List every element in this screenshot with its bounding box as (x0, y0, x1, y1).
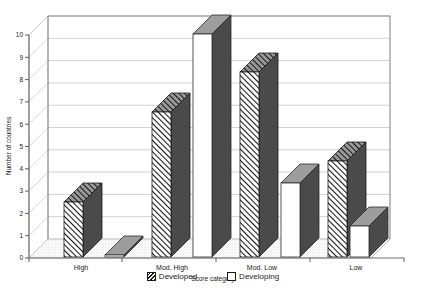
bar-modlow-developing (281, 164, 319, 257)
y-tick-label-9: 9 (19, 54, 23, 61)
legend-item-developed[interactable]: Developed (147, 272, 197, 281)
legend-item-developing[interactable]: Developing (227, 272, 279, 281)
y-tick-label-1: 1 (19, 232, 23, 239)
bar-modhigh-developing (193, 15, 231, 257)
legend-marker-empty-square (227, 272, 236, 281)
y-tick-label-4: 4 (19, 165, 23, 172)
x-tick-label-mod-low: Mod. Low (247, 264, 278, 271)
y-tick-label-0: 0 (19, 254, 23, 261)
bar-modlow-developed (240, 53, 278, 257)
y-tick-label-7: 7 (19, 98, 23, 105)
x-tick-label-high: High (74, 264, 89, 272)
bar-chart: 10 9 8 7 6 5 4 3 2 1 0 Number of countri… (0, 0, 426, 293)
y-tick-label-8: 8 (19, 76, 23, 83)
legend-marker-hatched-square (147, 272, 156, 281)
x-tick-label-mod-high: Mod. High (156, 264, 188, 272)
y-tick-label-5: 5 (19, 143, 23, 150)
y-axis-title: Number of countries (5, 116, 12, 175)
chart-canvas: 10 9 8 7 6 5 4 3 2 1 0 Number of countri… (0, 0, 426, 293)
chart-legend: Developed Developing (0, 272, 426, 281)
y-tick-label-2: 2 (19, 210, 23, 217)
y-tick-label-10: 10 (16, 31, 24, 38)
y-axis: 10 9 8 7 6 5 4 3 2 1 0 Number of countri… (5, 31, 29, 261)
y-tick-label-3: 3 (19, 187, 23, 194)
legend-label-developed: Developed (159, 272, 197, 281)
y-tick-label-6: 6 (19, 121, 23, 128)
bar-modhigh-developed (152, 93, 190, 257)
x-tick-label-low: Low (350, 264, 364, 271)
legend-label-developing: Developing (239, 272, 279, 281)
